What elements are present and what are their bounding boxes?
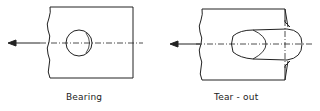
bearing-label: Bearing	[66, 92, 102, 102]
bearing-panel	[8, 7, 143, 78]
tear-out-label: Tear - out	[214, 92, 258, 102]
tear-out-pin	[253, 30, 266, 59]
tear-out-plate	[199, 9, 288, 80]
bearing-arrow-head	[8, 40, 16, 46]
tear-out-panel	[170, 9, 314, 80]
bearing-plate	[47, 7, 133, 78]
tear-out-arrow-head	[170, 41, 178, 47]
failure-modes-diagram	[0, 0, 320, 111]
tear-out-hole	[232, 29, 303, 60]
